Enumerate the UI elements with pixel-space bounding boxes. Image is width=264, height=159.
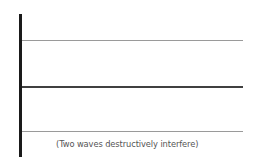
lower-reference-line <box>22 131 243 132</box>
resultant-flat-wave-line <box>22 86 243 88</box>
diagram-caption: (Two waves destructively interfere) <box>56 139 198 149</box>
upper-reference-line <box>22 40 243 41</box>
